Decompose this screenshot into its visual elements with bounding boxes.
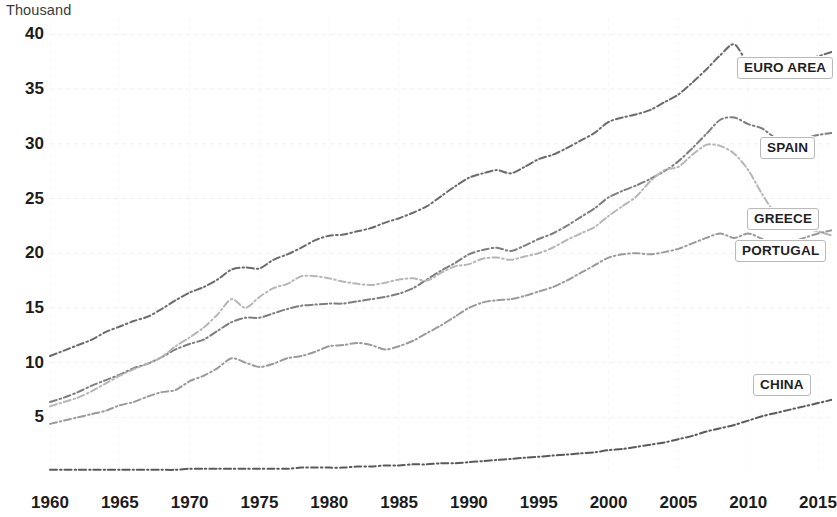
x-axis-tick-label: 1965	[101, 493, 139, 513]
x-axis-tick-label: 1990	[450, 493, 488, 513]
x-axis-tick-label: 2015	[799, 493, 837, 513]
series-line-euro-area	[50, 44, 832, 356]
series-label-spain[interactable]: SPAIN	[760, 137, 815, 159]
series-label-greece[interactable]: GREECE	[747, 208, 819, 230]
series-label-portugal[interactable]: PORTUGAL	[735, 240, 826, 262]
series-label-china[interactable]: CHINA	[753, 374, 811, 396]
x-axis-tick-label: 1975	[241, 493, 279, 513]
x-axis-tick-label: 1980	[310, 493, 348, 513]
series-line-china	[50, 400, 832, 470]
series-label-euro-area[interactable]: EURO AREA	[737, 57, 833, 79]
x-axis-tick-label: 1960	[31, 493, 69, 513]
x-axis-tick-label: 2000	[590, 493, 628, 513]
series-line-portugal	[50, 230, 832, 424]
x-axis-tick-label: 1970	[171, 493, 209, 513]
x-axis-tick-label: 2005	[659, 493, 697, 513]
x-axis-tick-label: 1995	[520, 493, 558, 513]
series-line-spain	[50, 117, 832, 402]
x-axis-tick-label: 1985	[380, 493, 418, 513]
x-axis-tick-label: 2010	[729, 493, 767, 513]
series-line-greece	[50, 144, 832, 406]
